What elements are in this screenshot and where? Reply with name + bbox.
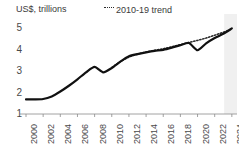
chart-container: US$, trillions 2010-19 trend 54321 20002… — [0, 0, 239, 153]
chart-plot-area — [0, 0, 239, 153]
x-axis-tick-marks — [26, 114, 232, 117]
y-axis-tick-label: 5 — [10, 23, 22, 33]
y-axis-tick-label: 4 — [10, 45, 22, 55]
y-axis-tick-label: 1 — [10, 109, 22, 119]
y-axis-tick-label: 3 — [10, 66, 22, 76]
y-axis-tick-label: 2 — [10, 88, 22, 98]
